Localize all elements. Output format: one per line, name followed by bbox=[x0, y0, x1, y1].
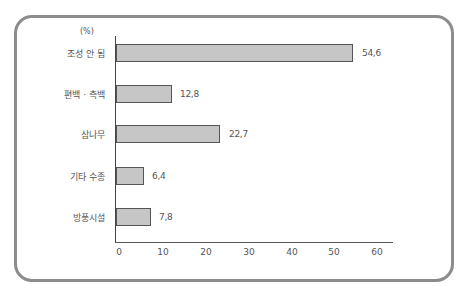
category-label: 삼나무 bbox=[81, 128, 105, 141]
x-tick-label: 50 bbox=[328, 247, 339, 257]
bar bbox=[116, 125, 220, 143]
x-axis-line bbox=[115, 242, 393, 243]
category-label: 방풍시설 bbox=[73, 211, 105, 224]
category-label: 조성 안 됨 bbox=[67, 47, 105, 60]
value-label: 22,7 bbox=[229, 129, 248, 139]
bar bbox=[116, 167, 144, 185]
unit-label: (%) bbox=[80, 27, 94, 36]
bar bbox=[116, 44, 353, 62]
x-tick-label: 10 bbox=[157, 247, 168, 257]
bar bbox=[116, 208, 151, 226]
x-tick-label: 60 bbox=[371, 247, 382, 257]
category-label: 편백 · 측백 bbox=[64, 88, 105, 101]
value-label: 7,8 bbox=[159, 212, 172, 222]
value-label: 6,4 bbox=[152, 171, 165, 181]
x-tick-label: 20 bbox=[200, 247, 211, 257]
x-tick-label: 30 bbox=[243, 247, 254, 257]
bar bbox=[116, 85, 172, 103]
value-label: 12,8 bbox=[180, 89, 199, 99]
x-tick-label: 0 bbox=[116, 247, 122, 257]
x-tick-label: 40 bbox=[286, 247, 297, 257]
category-label: 기타 수종 bbox=[70, 170, 105, 183]
value-label: 54,6 bbox=[362, 48, 381, 58]
